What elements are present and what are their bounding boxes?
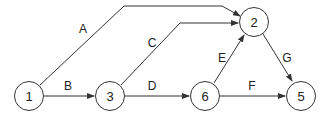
edge-b-label: B xyxy=(64,79,72,93)
node-1-label: 1 xyxy=(25,89,32,104)
edge-f: F xyxy=(220,79,285,96)
node-2: 2 xyxy=(240,8,269,37)
node-5: 5 xyxy=(287,82,316,111)
edge-d: D xyxy=(125,79,189,96)
edge-a: A xyxy=(40,6,240,85)
edge-d-label: D xyxy=(148,79,157,93)
node-6-label: 6 xyxy=(201,89,208,104)
edge-g: G xyxy=(263,34,292,81)
edge-c-label: C xyxy=(148,36,157,50)
node-3-label: 3 xyxy=(106,89,113,104)
node-2-label: 2 xyxy=(250,15,257,30)
edge-b: B xyxy=(44,79,94,96)
node-1: 1 xyxy=(15,82,44,111)
network-diagram: A B C D E F G 1 3 6 2 xyxy=(0,0,332,116)
edge-g-label: G xyxy=(282,51,291,65)
edge-e: E xyxy=(214,35,244,83)
edge-e-label: E xyxy=(218,51,226,65)
edge-a-label: A xyxy=(79,22,87,36)
node-5-label: 5 xyxy=(297,89,304,104)
edge-f-label: F xyxy=(248,79,255,93)
node-6: 6 xyxy=(191,82,220,111)
node-3: 3 xyxy=(96,82,125,111)
